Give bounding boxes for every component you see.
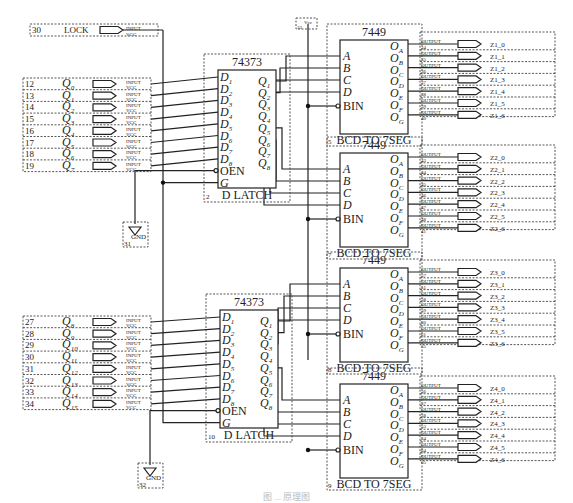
input-port-icon [93,162,116,169]
output-net-name: Z1_3 [490,76,505,84]
output-net-name: Z3_0 [490,269,505,277]
output-pin-number: 48 [421,217,427,222]
gnd-pin-number: 32 [139,481,147,489]
output-port-icon [458,154,481,161]
input-port-icon [93,92,116,99]
input-port-icon [93,400,116,407]
input-pin-number: 34 [25,399,35,409]
input-pin-number: 13 [25,91,35,101]
input-supply: VCC [126,97,137,102]
output-pin-number: 34 [421,45,427,50]
output-pin-number: 47 [421,205,427,210]
output-port-type: OUTPUT [421,430,441,435]
oen-inversion-bubble [216,409,220,413]
decoder-4-ref: 9 [328,482,332,490]
output-port-type: OUTPUT [421,383,441,388]
decoder-bin-label: BIN [343,327,364,341]
output-port-icon [458,177,481,184]
decoder-input-pin: D [342,313,352,327]
output-net-name: Z2_5 [490,213,505,221]
input-pin-number: 15 [25,114,35,124]
output-pin-number: 65 [421,460,427,465]
latch-data-in [151,352,220,357]
output-port-type: OUTPUT [421,223,441,228]
schematic-canvas: 30LOCKINPUTVCCVcc3312Q0INPUTVCC13Q1INPUT… [0,0,573,503]
output-pin-number: 38 [421,92,427,97]
output-port-icon [458,444,481,451]
output-pin-number: 59 [421,308,427,313]
output-pin-number: 35 [421,57,427,62]
output-port-icon [458,408,481,415]
output-port-icon [458,455,481,462]
latch-q-to-decoder [278,284,340,321]
output-port-icon [458,213,481,220]
latch-2-part-number: 74373 [234,295,264,309]
vcc-label: Vcc [304,20,313,25]
input-port-icon [93,365,116,372]
output-pin-number: 53 [421,424,427,429]
output-net-name: Z1_0 [490,41,505,49]
output-port-type: OUTPUT [421,418,441,423]
output-port-icon [458,41,481,48]
output-net-name: Z4_5 [490,444,505,452]
parts: 30LOCKINPUTVCCVcc3312Q0INPUTVCC13Q1INPUT… [23,18,555,491]
latch-g-label: G [220,176,229,190]
latch-1-ref: 2 [206,193,210,201]
input-pin-number: 17 [25,138,35,148]
latch-data-in [151,317,220,322]
output-port-type: OUTPUT [421,176,441,181]
output-net-name: Z4_0 [490,385,505,393]
input-port-icon [93,151,116,158]
latch-data-in [151,136,218,143]
latch-g-label: G [222,416,231,430]
output-net-name: Z1_5 [490,100,505,108]
input-port-icon [93,127,116,134]
bin-inversion-bubble [336,448,340,452]
input-supply: VCC [126,167,137,172]
output-net-name: Z1_2 [490,65,505,73]
latch-data-in [151,329,220,334]
input-pin-number: 32 [25,376,34,386]
input-port-icon [93,342,116,349]
output-port-icon [458,385,481,392]
latch-data-in [151,124,218,131]
input-supply: VCC [126,120,137,125]
decoder-bin-label: BIN [343,99,364,113]
decoder-1-part-number: 7449 [362,25,386,39]
latch-2-ref: 10 [208,433,216,441]
output-pin-number: 46 [421,193,427,198]
latch-q-to-decoder [278,308,340,344]
output-pin-number: 41 [421,229,427,234]
decoder-input-pin: D [342,429,352,443]
output-port-icon [458,269,481,276]
output-net-name: Z4_2 [490,409,505,417]
output-port-type: OUTPUT [421,314,441,319]
bin-inversion-bubble [336,332,340,336]
output-port-type: OUTPUT [421,302,441,307]
junction-dot [161,180,165,184]
input-supply: VCC [126,405,137,410]
output-port-type: OUTPUT [421,454,441,459]
output-port-icon [458,165,481,172]
output-port-type: OUTPUT [421,199,441,204]
output-port-type: OUTPUT [421,407,441,412]
decoder-3-ref: 8 [328,366,332,374]
output-port-icon [458,189,481,196]
latch-q-to-decoder [270,391,340,424]
latch-data-in [151,387,220,392]
output-net-name: Z4_3 [490,420,505,428]
output-port-type: OUTPUT [421,152,441,157]
latch-data-in [151,112,218,119]
output-port-icon [458,396,481,403]
input-pin-number: 30 [25,352,35,362]
output-port-type: OUTPUT [421,39,441,44]
latch-data-in [151,159,218,166]
output-port-type: OUTPUT [421,74,441,79]
output-net-name: Z3_5 [490,328,505,336]
output-port-type: OUTPUT [421,63,441,68]
output-port-icon [458,52,481,59]
output-port-icon [458,420,481,427]
gnd-pin-number: 31 [124,240,132,248]
output-port-type: OUTPUT [421,395,441,400]
latch-2-function: D LATCH [224,428,275,442]
